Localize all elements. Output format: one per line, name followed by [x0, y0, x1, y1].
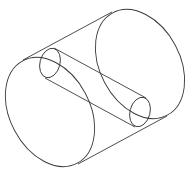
large-cylinder-bottom-edge — [78, 116, 167, 164]
large-cylinder-top-edge — [23, 12, 112, 60]
cylinder-diagram — [0, 0, 189, 170]
large-cylinder-back-face — [77, 0, 189, 134]
small-cylinder-front-face — [126, 95, 153, 129]
small-cylinder-bottom-edge — [45, 78, 135, 127]
